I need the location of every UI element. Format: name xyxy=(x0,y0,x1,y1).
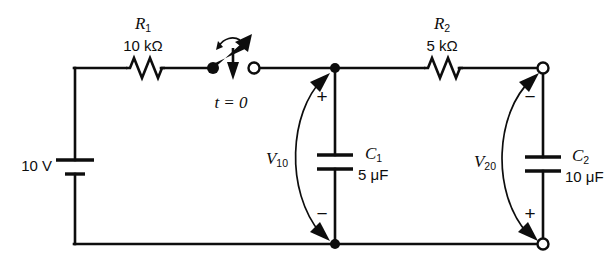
resistor-r2-symbol xyxy=(424,58,463,78)
voltage-source-symbol xyxy=(56,160,94,174)
voltage-v10-top-sign: + xyxy=(316,86,327,107)
voltage-v20-label: V20 xyxy=(474,152,496,172)
capacitor-c1-symbol xyxy=(317,155,353,169)
switch-close-arrow-head xyxy=(227,62,239,80)
voltage-v10-bottom-sign: − xyxy=(316,203,327,224)
capacitor-c2-name: C2 xyxy=(572,146,589,166)
node-dot-bottom xyxy=(330,239,340,249)
switch-time-label: t = 0 xyxy=(214,93,248,112)
resistor-r1-symbol xyxy=(126,58,165,78)
switch-symbol[interactable] xyxy=(207,34,260,80)
schematic-canvas: 10 V R1 10 kΩ R2 5 kΩ xyxy=(0,0,613,279)
capacitor-c1-name: C1 xyxy=(365,144,382,164)
terminal-bottom-right[interactable] xyxy=(538,239,549,250)
resistor-r2-name: R2 xyxy=(433,14,450,34)
voltage-v20-top-sign: − xyxy=(524,86,535,107)
voltage-source-label: 10 V xyxy=(21,157,52,174)
voltage-v10-arrowhead-bottom xyxy=(310,222,330,241)
capacitor-c2-symbol xyxy=(525,157,561,171)
node-dot-top xyxy=(330,63,340,73)
terminal-top-right[interactable] xyxy=(538,63,549,74)
switch-open-contact[interactable] xyxy=(249,63,260,74)
resistor-r1-name: R1 xyxy=(134,14,151,34)
voltage-v10-label: V10 xyxy=(266,149,288,169)
circuit-diagram: 10 V R1 10 kΩ R2 5 kΩ xyxy=(0,0,613,279)
voltage-v20-bottom-sign: + xyxy=(524,203,535,224)
capacitor-c2-value: 10 μF xyxy=(565,168,604,185)
resistor-r1-value: 10 kΩ xyxy=(123,37,163,54)
resistor-r2-value: 5 kΩ xyxy=(426,37,457,54)
capacitor-c1-value: 5 μF xyxy=(358,166,388,183)
